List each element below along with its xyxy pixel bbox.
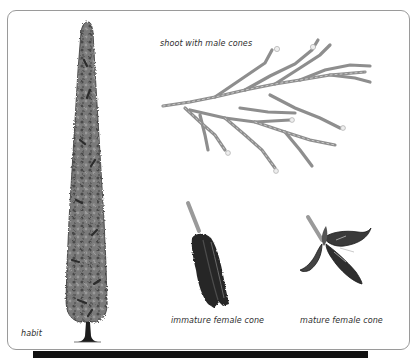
- caption-mature-female-cone: mature female cone: [300, 316, 383, 325]
- botanical-illustration: [0, 0, 418, 358]
- mature-female-cone-drawing: [300, 217, 371, 284]
- shoot-with-male-cones-drawing: [163, 40, 370, 168]
- tree-habit-drawing: [66, 22, 107, 342]
- bottom-black-bar: [33, 351, 368, 358]
- immature-female-cone-drawing: [188, 203, 229, 308]
- caption-immature-female-cone: immature female cone: [171, 316, 264, 325]
- caption-habit: habit: [21, 329, 42, 338]
- caption-shoot-with-male-cones: shoot with male cones: [160, 39, 252, 48]
